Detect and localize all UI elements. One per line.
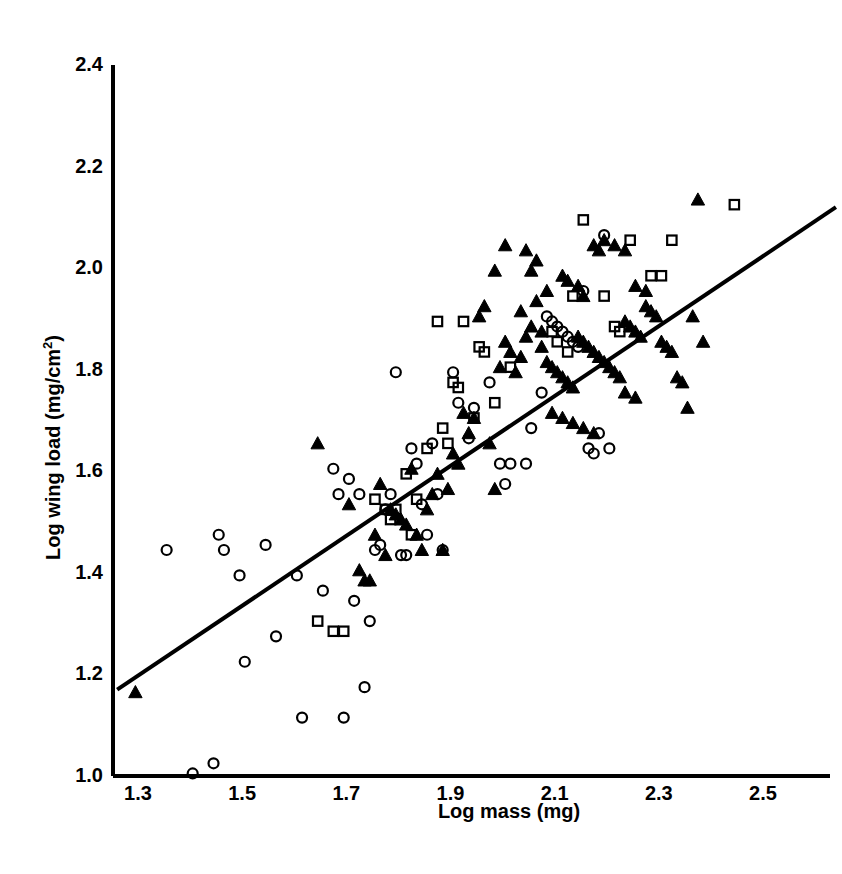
data-point-filled-triangle: [545, 406, 558, 418]
data-point-open-square: [443, 439, 452, 448]
data-point-open-square: [313, 616, 322, 625]
data-point-open-square: [490, 398, 499, 407]
data-point-filled-triangle: [681, 401, 694, 413]
regression-line: [117, 207, 836, 689]
data-point-filled-triangle: [498, 239, 511, 251]
x-axis-title: Log mass (mg): [0, 800, 842, 823]
data-point-open-square: [329, 627, 338, 636]
data-point-filled-triangle: [540, 284, 553, 296]
x-axis-title-text: Log mass (mg): [438, 800, 580, 822]
data-point-open-square: [568, 291, 577, 300]
data-point-open-circle: [261, 540, 271, 550]
data-point-filled-triangle: [696, 335, 709, 347]
data-point-filled-triangle: [129, 686, 142, 698]
y-axis-title-text: Log wing load (mg/cm: [42, 349, 64, 560]
data-point-open-square: [339, 627, 348, 636]
y-tick-label: 1.0: [45, 764, 103, 787]
data-point-open-circle: [354, 489, 364, 499]
data-point-filled-triangle: [525, 320, 538, 332]
y-axis-title: Log wing load (mg/cm2): [40, 335, 65, 560]
data-point-open-circle: [485, 377, 495, 387]
data-point-filled-triangle: [342, 498, 355, 510]
data-point-filled-triangle: [488, 264, 501, 276]
y-tick-label: 1.2: [45, 662, 103, 685]
data-point-open-circle: [448, 367, 458, 377]
data-point-open-circle: [391, 367, 401, 377]
data-point-open-square: [459, 317, 468, 326]
data-point-open-circle: [500, 479, 510, 489]
data-point-open-square: [563, 347, 572, 356]
data-point-open-square: [553, 337, 562, 346]
data-point-open-circle: [453, 398, 463, 408]
data-point-open-circle: [349, 596, 359, 606]
data-point-filled-triangle: [691, 193, 704, 205]
scatter-plot-figure: 1.01.21.41.61.82.02.22.4 1.31.51.71.92.1…: [0, 0, 842, 874]
data-point-open-circle: [505, 459, 515, 469]
data-point-open-square: [370, 495, 379, 504]
data-point-filled-triangle: [629, 279, 642, 291]
data-point-open-circle: [495, 459, 505, 469]
data-point-open-square: [438, 423, 447, 432]
data-point-open-circle: [386, 489, 396, 499]
data-point-open-circle: [162, 545, 172, 555]
data-point-open-circle: [214, 530, 224, 540]
data-point-filled-triangle: [368, 528, 381, 540]
data-point-open-circle: [526, 423, 536, 433]
data-point-open-circle: [344, 474, 354, 484]
y-axis-title-superscript: 2: [40, 342, 55, 349]
data-point-open-square: [646, 271, 655, 280]
data-point-open-square: [579, 215, 588, 224]
data-point-filled-triangle: [618, 386, 631, 398]
y-tick-label: 2.4: [45, 53, 103, 76]
data-point-open-circle: [240, 657, 250, 667]
plot-canvas: [0, 0, 842, 874]
data-point-open-circle: [334, 489, 344, 499]
data-point-filled-triangle: [373, 477, 386, 489]
data-point-open-square: [625, 236, 634, 245]
data-point-open-square: [657, 271, 666, 280]
data-point-open-circle: [235, 570, 245, 580]
data-point-open-circle: [365, 616, 375, 626]
data-point-open-circle: [219, 545, 229, 555]
data-point-filled-triangle: [441, 482, 454, 494]
data-point-open-circle: [537, 388, 547, 398]
data-point-filled-triangle: [415, 543, 428, 555]
y-axis-title-tail: ): [42, 335, 64, 342]
data-point-filled-triangle: [514, 305, 527, 317]
data-points: [129, 193, 739, 779]
data-point-open-square: [599, 291, 608, 300]
data-point-open-circle: [521, 459, 531, 469]
data-point-open-circle: [339, 713, 349, 723]
data-point-open-circle: [271, 631, 281, 641]
data-point-open-circle: [297, 713, 307, 723]
y-tick-label: 2.2: [45, 155, 103, 178]
data-point-open-square: [730, 200, 739, 209]
data-point-open-circle: [318, 586, 328, 596]
data-point-open-circle: [292, 570, 302, 580]
data-point-open-square: [433, 317, 442, 326]
data-point-filled-triangle: [686, 310, 699, 322]
data-point-filled-triangle: [519, 244, 532, 256]
data-point-open-circle: [328, 464, 338, 474]
data-point-open-square: [667, 236, 676, 245]
data-point-open-circle: [604, 443, 614, 453]
data-point-filled-triangle: [535, 340, 548, 352]
data-point-open-circle: [360, 682, 370, 692]
y-tick-label: 2.0: [45, 256, 103, 279]
y-tick-label: 1.4: [45, 561, 103, 584]
data-point-filled-triangle: [478, 300, 491, 312]
data-point-filled-triangle: [462, 426, 475, 438]
data-point-open-circle: [209, 758, 219, 768]
data-point-open-circle: [422, 530, 432, 540]
data-point-open-circle: [406, 443, 416, 453]
data-point-filled-triangle: [311, 437, 324, 449]
